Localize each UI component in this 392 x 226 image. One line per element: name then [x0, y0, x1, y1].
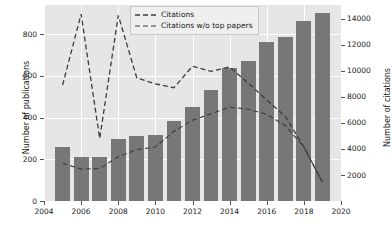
y-axis-left-title: Number of publications — [22, 38, 31, 178]
x-axis-tick-label: 2016 — [247, 207, 287, 216]
line-citations-wo-top-papers — [63, 107, 323, 182]
x-axis-tick — [44, 201, 45, 205]
x-axis-tick — [341, 201, 342, 205]
y-axis-right-tick-label: 14000 — [347, 14, 371, 23]
x-axis-tick — [81, 201, 82, 205]
x-axis-tick — [304, 201, 305, 205]
y-axis-left-tick-label: 800 — [0, 30, 37, 39]
legend-dashed-line-icon — [135, 22, 157, 30]
legend-dashed-line-icon — [135, 11, 157, 19]
legend: Citations Citations w/o top papers — [130, 6, 259, 35]
x-axis-tick-label: 2008 — [98, 207, 138, 216]
y-axis-left-tick — [40, 34, 44, 35]
y-axis-left-tick — [40, 118, 44, 119]
x-axis-tick — [230, 201, 231, 205]
x-axis-tick-label: 2018 — [284, 207, 324, 216]
y-axis-right-tick-label: 8000 — [347, 92, 366, 101]
y-axis-right-tick-label: 2000 — [347, 171, 366, 180]
y-axis-right-tick — [341, 19, 345, 20]
legend-item-citations-wo-top-papers: Citations w/o top papers — [135, 20, 253, 31]
y-axis-right-tick-label: 12000 — [347, 40, 371, 49]
legend-label-citations-wo-top-papers: Citations w/o top papers — [161, 21, 253, 30]
x-axis-tick-label: 2004 — [24, 207, 64, 216]
x-axis-tick-label: 2010 — [135, 207, 175, 216]
y-axis-right-tick — [341, 149, 345, 150]
legend-item-citations: Citations — [135, 9, 253, 20]
x-axis-tick — [118, 201, 119, 205]
legend-label-citations: Citations — [161, 10, 194, 19]
y-axis-right-tick — [341, 175, 345, 176]
y-axis-right-tick — [341, 123, 345, 124]
y-axis-left-tick-label: 600 — [0, 71, 37, 80]
y-axis-left-tick-label: 0 — [0, 197, 37, 206]
y-axis-right-tick — [341, 71, 345, 72]
y-axis-right-tick-label: 6000 — [347, 118, 366, 127]
y-axis-left-tick — [40, 76, 44, 77]
x-axis-tick-label: 2020 — [321, 207, 361, 216]
x-axis-tick-label: 2006 — [61, 207, 101, 216]
x-axis-tick — [267, 201, 268, 205]
y-axis-right-title: Number of citations — [383, 38, 392, 178]
x-axis-tick-label: 2012 — [173, 207, 213, 216]
x-axis-tick-label: 2014 — [210, 207, 250, 216]
y-axis-left-tick — [40, 159, 44, 160]
y-axis-right-tick-label: 4000 — [347, 144, 366, 153]
x-axis-tick — [193, 201, 194, 205]
y-axis-right-tick — [341, 97, 345, 98]
x-axis-tick — [155, 201, 156, 205]
y-axis-right-tick — [341, 45, 345, 46]
y-axis-left-tick-label: 400 — [0, 113, 37, 122]
y-axis-left-tick-label: 200 — [0, 155, 37, 164]
y-axis-right-tick-label: 10000 — [347, 66, 371, 75]
line-citations — [63, 14, 323, 182]
